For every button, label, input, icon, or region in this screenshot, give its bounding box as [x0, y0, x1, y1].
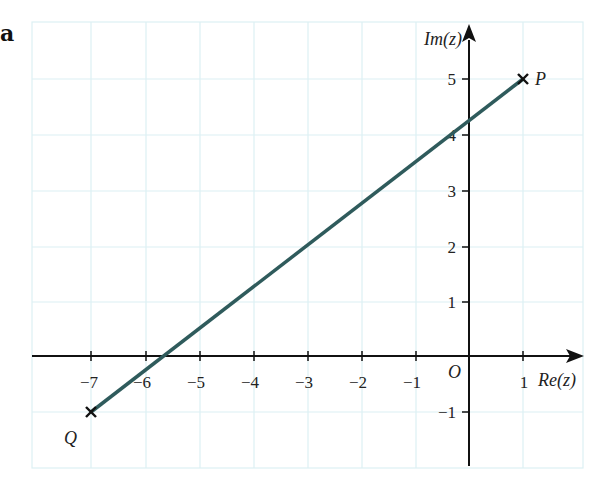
y-tick-label: 2: [448, 238, 457, 257]
origin-label: O: [448, 362, 461, 382]
y-tick-label: 5: [448, 70, 457, 89]
x-tick-label: −4: [241, 373, 260, 392]
point-q-label: Q: [64, 428, 77, 448]
x-tick-label: 1: [520, 373, 529, 392]
x-tick-label: −7: [80, 373, 99, 392]
x-axis-label: Re(z): [537, 370, 576, 391]
y-tick-label: 3: [448, 182, 457, 201]
y-axis: 5 4 3 2 1 −1 Im(z): [423, 24, 476, 466]
x-tick-label: −3: [295, 373, 313, 392]
y-axis-label: Im(z): [423, 29, 462, 50]
point-p-label: P: [534, 69, 546, 89]
x-tick-label: −2: [349, 373, 367, 392]
y-tick-label: −1: [438, 403, 456, 422]
y-tick-label: 1: [448, 293, 457, 312]
y-axis-arrow-icon: [462, 24, 476, 42]
x-tick-label: −1: [403, 373, 421, 392]
argand-diagram: −7 −6 −5 −4 −3 −2 −1 1 Re(z) 5 4 3 2 1 −…: [0, 0, 607, 479]
x-tick-label: −5: [187, 373, 205, 392]
